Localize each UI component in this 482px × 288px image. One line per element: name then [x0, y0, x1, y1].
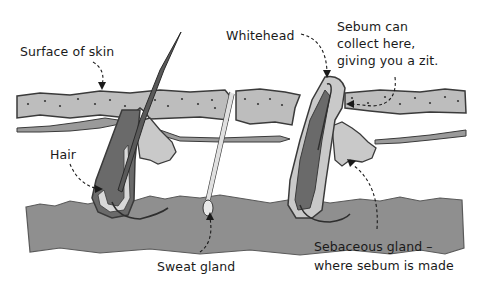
label-sebum-line3: giving you a zit.: [337, 53, 438, 68]
epidermis-middle: [236, 89, 300, 125]
arrow-hair: [70, 164, 98, 189]
label-sebaceous-line1: Sebaceous gland –: [314, 239, 433, 254]
sweat-gland-bulb: [203, 200, 213, 216]
label-whitehead: Whitehead: [226, 28, 294, 43]
epidermis-right: [345, 89, 466, 114]
label-sebum-line2: collect here,: [337, 36, 415, 51]
label-sweat-gland: Sweat gland: [157, 259, 235, 274]
label-surface-of-skin: Surface of skin: [20, 44, 114, 59]
dermal-line-right: [375, 130, 466, 144]
dermal-line-left: [17, 118, 120, 132]
label-sebum-line1: Sebum can: [337, 19, 408, 34]
skin-diagram: Surface of skin Whitehead Sebum can coll…: [0, 0, 482, 288]
label-sebaceous-line2: where sebum is made: [314, 258, 454, 273]
right-sebaceous-gland: [332, 122, 376, 166]
arrow-whitehead: [301, 34, 327, 72]
arrow-surface: [93, 62, 103, 85]
label-hair: Hair: [50, 147, 76, 162]
